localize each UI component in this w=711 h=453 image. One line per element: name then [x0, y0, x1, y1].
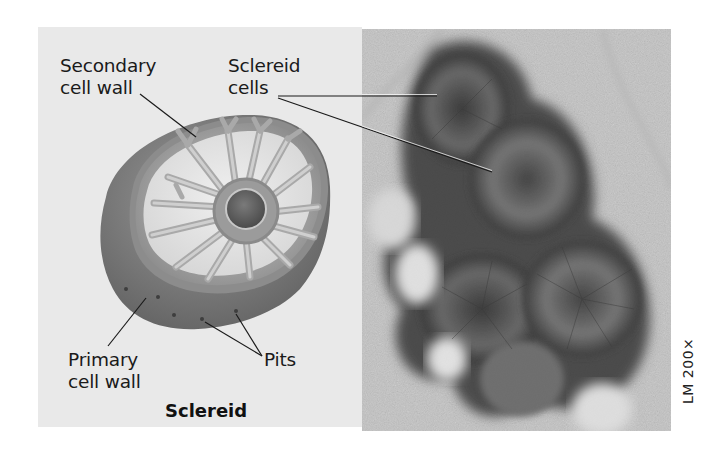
label-sclereid-cells: Sclereid cells: [228, 55, 300, 99]
label-primary-cell-wall: Primary cell wall: [68, 349, 141, 393]
micrograph-panel: [362, 29, 671, 431]
micrograph-image: [362, 29, 671, 431]
sclereid-figure: Secondary cell wall Sclereid cells Prima…: [0, 0, 711, 453]
magnification-label: LM 200×: [680, 338, 696, 404]
label-pits: Pits: [264, 349, 296, 371]
label-secondary-cell-wall: Secondary cell wall: [60, 55, 156, 99]
lumen: [226, 189, 266, 229]
diagram-title: Sclereid: [165, 400, 247, 421]
